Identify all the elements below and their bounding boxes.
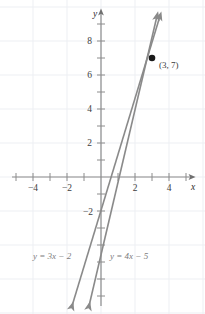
x-tick-label-neg4: −4 [28, 183, 38, 193]
equation-label-second: y = 4x − 5 [109, 251, 149, 261]
y-tick-label-pos8: 8 [87, 36, 92, 46]
x-tick-label-pos4: 4 [167, 183, 172, 193]
y-tick-label-pos2: 2 [87, 138, 92, 148]
x-axis-label: x [190, 182, 196, 192]
x-tick-label-neg2: −2 [62, 183, 72, 193]
y-tick-label-neg2: −2 [83, 207, 93, 217]
chart-background [0, 0, 205, 314]
intersection-point-label: (3, 7) [159, 60, 179, 70]
intersection-point-dot [149, 55, 156, 62]
y-tick-label-pos6: 6 [87, 70, 92, 80]
equation-label-first: y = 3x − 2 [32, 251, 72, 261]
coordinate-plane-svg: −4 −2 2 4 2 4 6 8 −2 x y (3, 7) y = 3x −… [0, 0, 205, 314]
x-tick-label-pos2: 2 [133, 183, 138, 193]
graph-figure: −4 −2 2 4 2 4 6 8 −2 x y (3, 7) y = 3x −… [0, 0, 205, 314]
y-axis-label: y [92, 9, 98, 19]
y-tick-label-pos4: 4 [87, 104, 92, 114]
